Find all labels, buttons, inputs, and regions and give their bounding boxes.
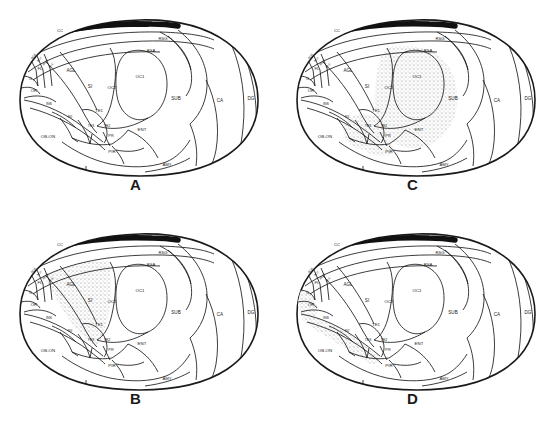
label-ob-on: OB-ON bbox=[318, 348, 332, 353]
label-ins: INS bbox=[323, 316, 330, 320]
label-te3: TE3 bbox=[365, 338, 372, 342]
label-ins: INS bbox=[46, 102, 53, 106]
label-sii: SII bbox=[68, 329, 72, 333]
label-pir: PIR bbox=[385, 149, 392, 154]
label-si: SI bbox=[88, 298, 92, 303]
panel-letter-d: D bbox=[407, 390, 418, 407]
panel-letter-c: C bbox=[407, 176, 418, 193]
label-ob-on: OB-ON bbox=[41, 134, 55, 139]
label-ent: ENT bbox=[415, 127, 424, 132]
label-pr: PR bbox=[108, 348, 114, 352]
label-sii: SII bbox=[345, 115, 349, 119]
label-te3: TE3 bbox=[88, 338, 95, 342]
label-te1: TE1 bbox=[95, 108, 104, 113]
label-oc1: OC1 bbox=[135, 288, 145, 293]
label-cc: CC bbox=[57, 242, 63, 247]
label-dg: DG bbox=[248, 96, 255, 101]
label-or: OR bbox=[31, 302, 37, 307]
label-rsg: RSG bbox=[435, 250, 444, 255]
label-sub: SUB bbox=[171, 310, 180, 315]
label-ent: ENT bbox=[138, 341, 147, 346]
label-or: OR bbox=[31, 88, 37, 93]
label-oc2: OC2 bbox=[107, 299, 117, 304]
label-sub: SUB bbox=[448, 96, 457, 101]
label-te3: TE3 bbox=[365, 124, 372, 128]
label-pir: PIR bbox=[385, 363, 392, 368]
label-sub: SUB bbox=[171, 96, 180, 101]
label-cc: CC bbox=[57, 28, 63, 33]
label-rsa: RSA bbox=[424, 48, 433, 53]
label-rsa: RSA bbox=[147, 48, 156, 53]
label-or: OR bbox=[308, 88, 314, 93]
label-te2: TE2 bbox=[104, 338, 111, 342]
label-cc: CC bbox=[334, 242, 340, 247]
label-fl: FL bbox=[315, 280, 321, 285]
label-pr: PR bbox=[108, 134, 114, 138]
label-dg: DG bbox=[525, 310, 532, 315]
label-dg: DG bbox=[248, 310, 255, 315]
label-si: SI bbox=[365, 298, 369, 303]
label-te1: TE1 bbox=[372, 322, 381, 327]
label-ca: CA bbox=[494, 312, 501, 317]
label-si: SI bbox=[365, 84, 369, 89]
label-ins: INS bbox=[46, 316, 53, 320]
label-or: OR bbox=[308, 302, 314, 307]
label-te2: TE2 bbox=[381, 338, 388, 342]
label-cc: CC bbox=[334, 28, 340, 33]
label-te1: TE1 bbox=[372, 108, 381, 113]
label-sii: SII bbox=[345, 329, 349, 333]
label-fl: FL bbox=[38, 280, 44, 285]
label-rsa: RSA bbox=[147, 262, 156, 267]
label-fl: FL bbox=[315, 66, 321, 71]
label-amy: AMY bbox=[162, 376, 171, 381]
label-rsg: RSG bbox=[158, 36, 167, 41]
label-pr: PR bbox=[385, 134, 391, 138]
label-oc1: OC1 bbox=[135, 74, 145, 79]
label-te3: TE3 bbox=[88, 124, 95, 128]
label-ca: CA bbox=[494, 98, 501, 103]
label-ca: CA bbox=[217, 98, 224, 103]
label-amy: AMY bbox=[439, 376, 448, 381]
label-sii: SII bbox=[68, 115, 72, 119]
panel-letter-b: B bbox=[130, 390, 141, 407]
label-ins: INS bbox=[323, 102, 330, 106]
label-oc2: OC2 bbox=[107, 85, 117, 90]
label-pir: PIR bbox=[108, 363, 115, 368]
label-oc1: OC1 bbox=[412, 74, 422, 79]
label-agl: AGL bbox=[343, 68, 353, 73]
label-ent: ENT bbox=[415, 341, 424, 346]
label-amy: AMY bbox=[162, 162, 171, 167]
label-si: SI bbox=[88, 84, 92, 89]
label-oc2: OC2 bbox=[384, 299, 394, 304]
label-te1: TE1 bbox=[95, 322, 104, 327]
label-te2: TE2 bbox=[381, 124, 388, 128]
label-ent: ENT bbox=[138, 127, 147, 132]
label-pir: PIR bbox=[108, 149, 115, 154]
label-oc2: OC2 bbox=[384, 85, 394, 90]
label-ob-on: OB-ON bbox=[318, 134, 332, 139]
label-rsa: RSA bbox=[424, 262, 433, 267]
label-rsg: RSG bbox=[435, 36, 444, 41]
panel-letter-a: A bbox=[130, 176, 141, 193]
label-ob-on: OB-ON bbox=[41, 348, 55, 353]
label-fl: FL bbox=[38, 66, 44, 71]
label-pr: PR bbox=[385, 348, 391, 352]
label-te2: TE2 bbox=[104, 124, 111, 128]
label-agl: AGL bbox=[343, 282, 353, 287]
figure-root: CC RSG RSA ACd ACv AGm PLC FL IL OR AGL … bbox=[0, 0, 554, 428]
label-ca: CA bbox=[217, 312, 224, 317]
label-sub: SUB bbox=[448, 310, 457, 315]
label-dg: DG bbox=[525, 96, 532, 101]
label-rsg: RSG bbox=[158, 250, 167, 255]
label-amy: AMY bbox=[439, 162, 448, 167]
label-oc1: OC1 bbox=[412, 288, 422, 293]
label-agl: AGL bbox=[66, 282, 76, 287]
label-agl: AGL bbox=[66, 68, 76, 73]
